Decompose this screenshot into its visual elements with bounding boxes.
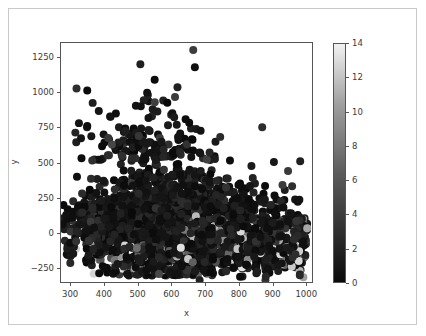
x-tick-mark [205, 283, 206, 286]
x-tick-label: 500 [129, 289, 145, 299]
y-tick-label: 0 [8, 228, 54, 238]
colorbar-tick-mark [346, 146, 349, 147]
colorbar-tick-label: 10 [352, 107, 363, 117]
y-tick-mark [57, 163, 60, 164]
x-tick-mark [239, 283, 240, 286]
scatter-plot-axes[interactable] [60, 42, 313, 283]
y-axis-label: y [9, 156, 19, 168]
scatter-points-canvas [61, 43, 313, 283]
colorbar-tick-label: 2 [352, 244, 357, 254]
colorbar-tick-mark [346, 180, 349, 181]
x-tick-mark [171, 283, 172, 286]
y-tick-mark [57, 92, 60, 93]
colorbar[interactable] [333, 43, 346, 283]
colorbar-tick-mark [346, 77, 349, 78]
y-tick-label: 1000 [8, 87, 54, 97]
x-tick-mark [70, 283, 71, 286]
y-tick-mark [57, 127, 60, 128]
colorbar-tick-mark [346, 283, 349, 284]
colorbar-tick-label: 6 [352, 175, 357, 185]
x-tick-mark [306, 283, 307, 286]
colorbar-tick-label: 4 [352, 209, 357, 219]
x-tick-label: 700 [197, 289, 213, 299]
x-tick-mark [138, 283, 139, 286]
colorbar-tick-label: 14 [352, 38, 363, 48]
x-tick-label: 400 [96, 289, 112, 299]
x-tick-label: 800 [231, 289, 247, 299]
y-tick-label: 250 [8, 193, 54, 203]
y-tick-mark [57, 198, 60, 199]
y-tick-label: 1250 [8, 52, 54, 62]
x-axis-label: x [184, 308, 189, 318]
colorbar-gradient [334, 44, 345, 282]
x-tick-label: 900 [264, 289, 280, 299]
colorbar-tick-label: 12 [352, 72, 363, 82]
x-tick-label: 1000 [295, 289, 317, 299]
colorbar-tick-mark [346, 112, 349, 113]
y-tick-label: 750 [8, 122, 54, 132]
y-tick-mark [57, 57, 60, 58]
x-tick-label: 300 [62, 289, 78, 299]
y-tick-mark [57, 268, 60, 269]
figure: −250025050075010001250300400500600700800… [0, 0, 426, 336]
x-tick-mark [273, 283, 274, 286]
colorbar-tick-mark [346, 214, 349, 215]
x-tick-mark [104, 283, 105, 286]
colorbar-tick-label: 8 [352, 141, 357, 151]
colorbar-tick-label: 0 [352, 278, 357, 288]
y-tick-mark [57, 233, 60, 234]
colorbar-tick-mark [346, 249, 349, 250]
y-tick-label: −250 [8, 263, 54, 273]
x-tick-label: 600 [163, 289, 179, 299]
colorbar-tick-mark [346, 43, 349, 44]
